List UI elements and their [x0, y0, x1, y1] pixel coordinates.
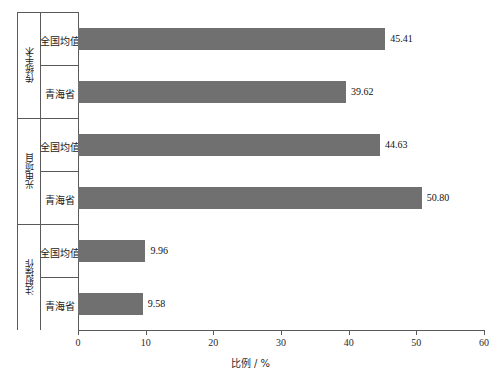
category-group-label-text: 传统手术	[22, 47, 35, 83]
x-axis-tick	[416, 330, 417, 335]
x-axis-tick-label: 40	[329, 337, 369, 349]
x-axis-tick-label: 0	[58, 337, 98, 349]
category-item-separator	[40, 277, 78, 278]
category-group-label-text: 注射操作	[22, 259, 35, 295]
category-item-separator	[40, 65, 78, 66]
bar	[78, 28, 385, 50]
bar-value-label: 9.96	[150, 246, 168, 256]
x-axis-tick	[281, 330, 282, 335]
category-item-label: 全国均值	[40, 245, 75, 260]
category-group-label: 光电项目	[17, 118, 39, 224]
category-item-separator	[40, 171, 78, 172]
x-axis-tick-label: 60	[464, 337, 501, 349]
bar	[78, 134, 380, 156]
bar-value-label: 9.58	[148, 299, 166, 309]
x-axis-tick	[349, 330, 350, 335]
x-axis-tick	[146, 330, 147, 335]
x-axis-tick-label: 10	[126, 337, 166, 349]
bar	[78, 293, 143, 315]
x-axis-tick-label: 50	[396, 337, 436, 349]
x-axis-tick	[78, 330, 79, 335]
bar-value-label: 45.41	[390, 34, 413, 44]
bar	[78, 187, 422, 209]
y-axis-line	[78, 12, 79, 330]
category-item-label: 全国均值	[40, 33, 75, 48]
bar-value-label: 50.80	[427, 193, 450, 203]
category-item-label: 青海省	[40, 298, 75, 313]
bar-value-label: 44.63	[385, 140, 408, 150]
x-axis-tick-label: 20	[193, 337, 233, 349]
x-axis-title: 比例 / %	[0, 355, 501, 370]
x-axis-tick	[484, 330, 485, 335]
category-group-label: 传统手术	[17, 12, 39, 118]
x-axis-tick-label: 30	[261, 337, 301, 349]
category-item-label: 全国均值	[40, 139, 75, 154]
bar-value-label: 39.62	[351, 87, 374, 97]
x-axis-tick	[213, 330, 214, 335]
category-group-label: 注射操作	[17, 224, 39, 330]
category-item-label: 青海省	[40, 192, 75, 207]
horizontal-bar-chart: 传统手术光电项目注射操作 全国均值青海省全国均值青海省全国均值青海省 45.41…	[0, 0, 501, 379]
category-item-label: 青海省	[40, 86, 75, 101]
bar	[78, 81, 346, 103]
category-group-label-text: 光电项目	[22, 153, 35, 189]
bar	[78, 240, 145, 262]
